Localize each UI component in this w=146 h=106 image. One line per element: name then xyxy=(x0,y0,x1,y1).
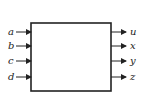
output-u: u xyxy=(111,26,136,37)
output-label-z: z xyxy=(129,71,136,82)
input-c: c xyxy=(8,55,31,66)
output-label-y: y xyxy=(129,55,136,66)
input-label-c: c xyxy=(8,55,14,66)
system-block xyxy=(31,23,111,91)
block-diagram: a b c d u x y z xyxy=(0,0,146,106)
output-label-x: x xyxy=(130,40,136,51)
input-label-b: b xyxy=(8,40,14,51)
output-y: y xyxy=(111,55,136,66)
input-d: d xyxy=(8,71,31,82)
input-a: a xyxy=(8,26,31,37)
input-label-a: a xyxy=(8,26,14,37)
output-z: z xyxy=(111,71,136,82)
input-b: b xyxy=(8,40,31,51)
input-label-d: d xyxy=(8,71,14,82)
output-label-u: u xyxy=(130,26,136,37)
output-x: x xyxy=(111,40,136,51)
